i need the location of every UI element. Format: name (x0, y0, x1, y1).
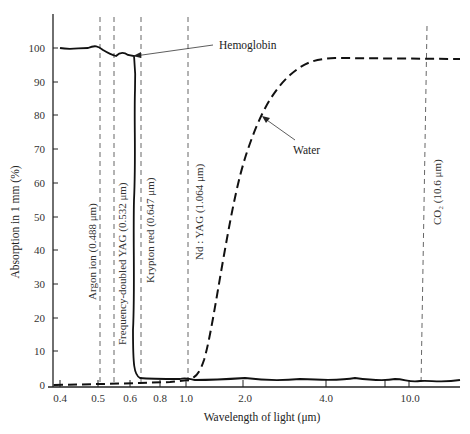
y-tick-label: 20 (34, 312, 46, 324)
x-tick-label: 4.0 (319, 392, 333, 404)
x-tick-label: 1.0 (179, 392, 193, 404)
water-curve (54, 58, 460, 385)
y-tick-label: 90 (34, 76, 46, 88)
hemoglobin-annotation: Hemoglobin (219, 39, 277, 52)
co2-line (421, 26, 427, 386)
x-tick-label: 2.0 (238, 392, 252, 404)
water-pointer (264, 118, 295, 140)
x-tick-label: 10.0 (400, 392, 420, 404)
x-tick-label: 0.4 (53, 392, 67, 404)
co2-label: CO₂ (10.6 μm) (431, 159, 444, 225)
fdyag-label: Frequency-doubled YAG (0.532 μm) (116, 182, 129, 345)
y-tick-label: 40 (34, 244, 46, 256)
ndyag-label: Nd : YAG (1.064 μm) (193, 163, 206, 260)
y-tick-label: 50 (34, 211, 46, 223)
y-tick-label: 30 (34, 278, 46, 290)
x-tick-label: 0.6 (123, 392, 137, 404)
y-tick-labels: 0 10 20 30 40 50 60 70 80 90 100 (29, 42, 46, 391)
x-tick-label: 0.5 (91, 392, 105, 404)
x-tick-label: 0.8 (153, 392, 167, 404)
y-tick-label: 10 (34, 345, 46, 357)
krypton-label: Krypton red (0.647 μm) (144, 177, 157, 283)
y-tick-label: 70 (34, 143, 46, 155)
water-arrowhead (262, 116, 270, 123)
water-annotation: Water (293, 144, 320, 156)
x-tick-labels: 0.4 0.5 0.6 0.8 1.0 2.0 4.0 10.0 (53, 392, 420, 404)
argon-label: Argon ion (0.488 μm) (86, 203, 99, 300)
y-tick-label: 0 (40, 379, 46, 391)
y-ticks (53, 48, 58, 385)
y-tick-label: 100 (29, 42, 46, 54)
x-axis-title: Wavelength of light (μm) (204, 411, 321, 424)
y-tick-label: 60 (34, 177, 46, 189)
hemoglobin-pointer (135, 45, 213, 56)
absorption-chart: 0 10 20 30 40 50 60 70 80 90 100 Absorpt… (0, 0, 470, 434)
y-tick-label: 80 (34, 109, 46, 121)
y-axis-title: Absorption in 1 mm (%) (9, 165, 22, 278)
